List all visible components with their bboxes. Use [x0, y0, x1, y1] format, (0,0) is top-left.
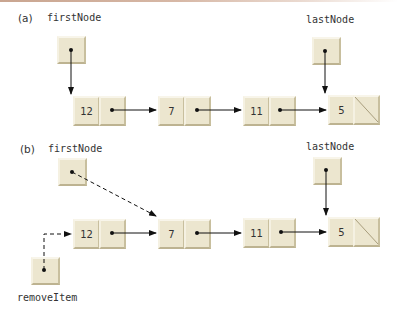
node-data-7-b: 7: [158, 219, 185, 249]
node-data-12-a: 12: [73, 96, 100, 126]
first-node-label-a: firstNode: [47, 12, 101, 23]
node-next-12-b: [99, 219, 126, 249]
top-rule: [0, 0, 398, 2]
last-node-label-a: lastNode: [306, 14, 354, 25]
node-data-11-a: 11: [243, 96, 270, 126]
remove-item-label: removeItem: [17, 292, 77, 303]
node-next-7-a: [184, 96, 211, 126]
last-node-pointer-b: [313, 157, 342, 185]
node-data-5-b: 5: [328, 217, 355, 247]
first-node-label-b: firstNode: [48, 143, 102, 154]
node-null-5-b: [353, 217, 380, 247]
node-next-11-b: [269, 218, 296, 248]
last-node-label-b: lastNode: [306, 141, 354, 152]
node-data-7-a: 7: [158, 96, 185, 126]
node-next-12-a: [99, 96, 126, 126]
part-a-label: (a): [18, 12, 33, 24]
remove-item-pointer: [31, 257, 60, 285]
node-next-7-b: [184, 219, 211, 249]
node-null-5-a: [353, 95, 380, 125]
node-data-11-b: 11: [243, 218, 270, 248]
first-node-pointer-b: [58, 158, 87, 186]
node-data-5-a: 5: [328, 95, 355, 125]
node-data-12-b: 12: [73, 219, 100, 249]
part-b-label: (b): [20, 143, 35, 155]
last-node-pointer-a: [312, 37, 341, 65]
node-next-11-a: [269, 96, 296, 126]
first-node-pointer-a: [57, 36, 86, 64]
